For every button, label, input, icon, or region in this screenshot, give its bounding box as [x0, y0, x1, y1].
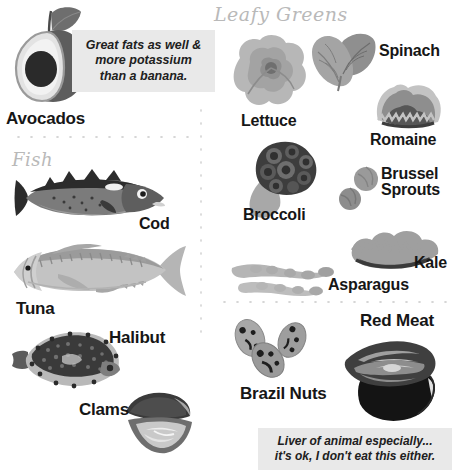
item-label-asparagus: Asparagus [328, 276, 409, 293]
item-label-brazil-nuts: Brazil Nuts [240, 385, 327, 402]
item-label-clams: Clams [79, 401, 129, 418]
item-label-kale: Kale [414, 254, 447, 271]
red-meat-illustration [330, 332, 448, 428]
clams-illustration [124, 390, 196, 456]
item-label-halibut: Halibut [109, 329, 165, 346]
item-label-lettuce: Lettuce [241, 112, 297, 129]
section-heading-leafy-greens: Leafy Greens [214, 3, 348, 25]
item-label-tuna: Tuna [16, 300, 55, 317]
avocado-callout: Great fats as well & more potassium than… [72, 30, 215, 92]
divider-left-upper [12, 136, 196, 138]
spinach-illustration [310, 30, 378, 92]
item-label-brussel-sprouts: Brussel Sprouts [381, 166, 440, 198]
divider-vertical [200, 104, 202, 336]
item-label-romaine: Romaine [370, 131, 436, 148]
item-label-cod: Cod [139, 215, 170, 232]
lettuce-illustration [226, 32, 312, 110]
item-label-red-meat: Red Meat [360, 312, 434, 329]
item-label-broccoli: Broccoli [243, 206, 305, 223]
item-label-avocados: Avocados [6, 110, 85, 127]
divider-right-lower [218, 301, 450, 303]
section-heading-fish: Fish [12, 149, 53, 170]
tuna-illustration [6, 238, 188, 304]
brazil-nuts-illustration [226, 318, 312, 380]
asparagus-illustration [230, 252, 340, 296]
infographic-canvas: Leafy Greens Fish Avocados Great fats as… [0, 0, 452, 475]
brussel-sprouts-illustration [336, 166, 382, 214]
item-label-spinach: Spinach [379, 42, 440, 59]
red-meat-callout: Liver of animal especially... it's ok, I… [258, 428, 452, 470]
romaine-illustration [372, 82, 444, 130]
